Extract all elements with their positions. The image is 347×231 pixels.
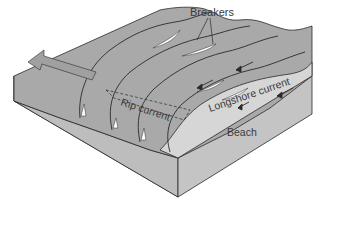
beach-label: Beach — [227, 126, 257, 138]
rip-current-diagram: Breakers Longshore current Rip current B… — [0, 0, 347, 231]
breakers-label: Breakers — [190, 6, 235, 18]
